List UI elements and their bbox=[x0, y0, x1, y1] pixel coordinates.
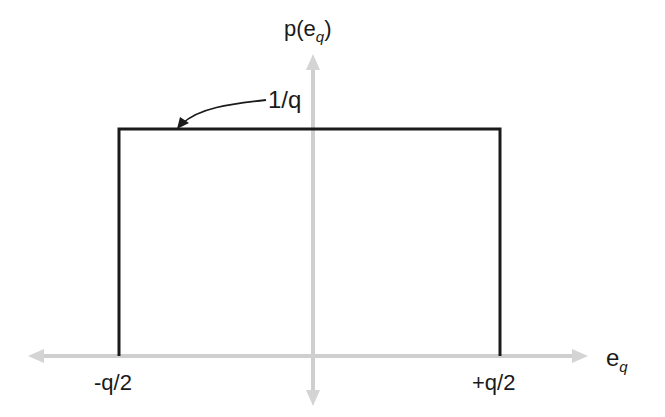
height-pointer bbox=[177, 100, 266, 129]
x-axis-label: eq bbox=[606, 344, 628, 372]
y-axis bbox=[306, 54, 320, 406]
left-arrow-icon bbox=[28, 349, 44, 363]
height-label: 1/q bbox=[268, 86, 301, 114]
right-arrow-icon bbox=[572, 349, 588, 363]
left-tick-label: -q/2 bbox=[94, 370, 132, 396]
y-axis-label: p(eq) bbox=[284, 16, 331, 42]
up-arrow-icon bbox=[306, 54, 320, 70]
right-tick-label: +q/2 bbox=[472, 370, 515, 396]
diagram-canvas bbox=[0, 0, 665, 417]
down-arrow-icon bbox=[306, 390, 320, 406]
x-axis bbox=[28, 349, 588, 363]
pdf-curve bbox=[119, 129, 500, 356]
